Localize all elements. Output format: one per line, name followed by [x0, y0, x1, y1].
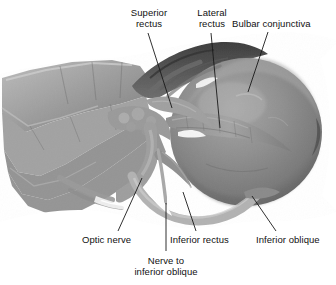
anatomy-figure: SuperiorrectusLateralrectusBulbar conjun… — [0, 0, 336, 285]
label-superior-rectus: Superiorrectus — [118, 8, 180, 29]
label-optic-nerve-line-1: Optic nerve — [82, 235, 142, 246]
label-bulbar-conjunctiva: Bulbar conjunctiva — [232, 19, 332, 30]
label-lateral-rectus-line-1: Lateral — [185, 8, 239, 19]
label-inferior-oblique: Inferior oblique — [256, 235, 332, 246]
label-lateral-rectus: Lateralrectus — [185, 8, 239, 29]
label-inferior-rectus: Inferior rectus — [170, 235, 242, 246]
label-lateral-rectus-line-2: rectus — [185, 19, 239, 30]
label-inferior-oblique-line-1: Inferior oblique — [256, 235, 332, 246]
label-optic-nerve: Optic nerve — [82, 235, 142, 246]
label-superior-rectus-line-1: Superior — [118, 8, 180, 19]
label-bulbar-conjunctiva-line-1: Bulbar conjunctiva — [232, 19, 332, 30]
label-nerve-to-inferior-oblique: Nerve toinferior oblique — [118, 256, 214, 277]
label-nerve-to-inferior-oblique-line-1: Nerve to — [118, 256, 214, 267]
label-inferior-rectus-line-1: Inferior rectus — [170, 235, 242, 246]
label-superior-rectus-line-2: rectus — [118, 19, 180, 30]
label-nerve-to-inferior-oblique-line-2: inferior oblique — [118, 267, 214, 278]
